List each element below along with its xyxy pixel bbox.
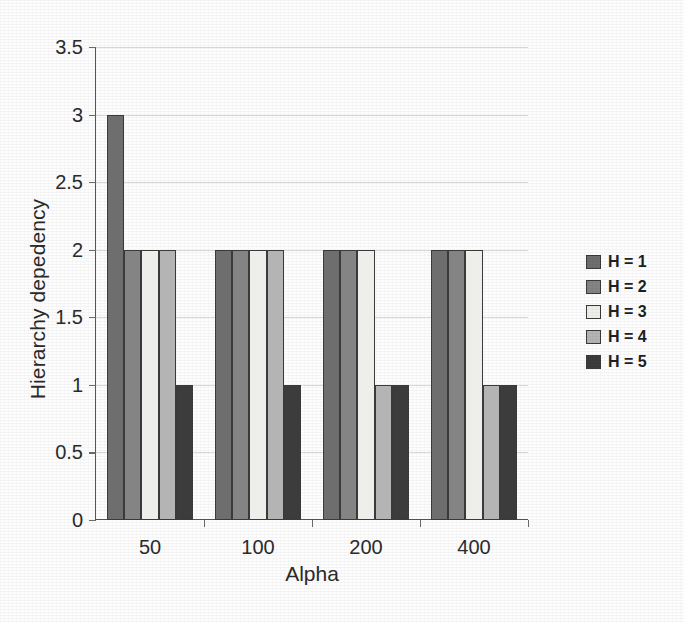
x-axis-title: Alpha	[96, 562, 528, 586]
legend-label: H = 2	[608, 278, 647, 296]
y-axis-line	[95, 47, 96, 520]
x-tick-label: 50	[139, 536, 161, 559]
bar	[159, 250, 176, 520]
legend-item: H = 2	[586, 278, 647, 296]
bar	[500, 385, 517, 520]
bar	[392, 385, 409, 520]
plot-area: 00.511.522.533.5 50100200400	[96, 47, 528, 520]
x-tick-label: 200	[349, 536, 382, 559]
bar	[483, 385, 500, 520]
bar	[323, 250, 340, 520]
y-tick-label: 3	[72, 103, 83, 126]
bar	[375, 385, 392, 520]
y-tick-mark	[89, 520, 96, 521]
y-tick-mark	[89, 317, 96, 318]
bar	[124, 250, 141, 520]
y-tick-mark	[89, 47, 96, 48]
chart-legend: H = 1H = 2H = 3H = 4H = 5	[586, 253, 647, 371]
bar	[465, 250, 482, 520]
legend-swatch-icon	[586, 280, 601, 294]
legend-item: H = 5	[586, 353, 647, 371]
legend-swatch-icon	[586, 255, 601, 269]
legend-swatch-icon	[586, 330, 601, 344]
bar	[176, 385, 193, 520]
y-tick-mark	[89, 452, 96, 453]
bar	[107, 115, 124, 520]
x-tick-mark	[312, 520, 313, 527]
legend-label: H = 3	[608, 303, 647, 321]
gridline	[96, 115, 528, 116]
chart-figure: Hierarchy depedency 00.511.522.533.5 501…	[0, 0, 684, 622]
y-axis-title: Hierarchy depedency	[26, 169, 50, 429]
bar	[340, 250, 357, 520]
y-tick-label: 2.5	[55, 171, 83, 194]
y-tick-mark	[89, 182, 96, 183]
y-tick-label: 1	[72, 373, 83, 396]
bar	[284, 385, 301, 520]
legend-swatch-icon	[586, 355, 601, 369]
bar	[232, 250, 249, 520]
bar	[357, 250, 374, 520]
y-tick-mark	[89, 385, 96, 386]
bar	[249, 250, 266, 520]
bar	[448, 250, 465, 520]
x-tick-label: 400	[457, 536, 490, 559]
bar	[215, 250, 232, 520]
legend-label: H = 4	[608, 328, 647, 346]
y-tick-label: 3.5	[55, 36, 83, 59]
gridline	[96, 47, 528, 48]
legend-item: H = 1	[586, 253, 647, 271]
x-tick-label: 100	[241, 536, 274, 559]
legend-label: H = 5	[608, 353, 647, 371]
y-tick-label: 0	[72, 509, 83, 532]
y-tick-mark	[89, 250, 96, 251]
y-tick-mark	[89, 115, 96, 116]
gridline	[96, 182, 528, 183]
y-tick-label: 2	[72, 238, 83, 261]
legend-label: H = 1	[608, 253, 647, 271]
x-tick-mark	[420, 520, 421, 527]
bar	[267, 250, 284, 520]
legend-item: H = 4	[586, 328, 647, 346]
legend-swatch-icon	[586, 305, 601, 319]
bar	[431, 250, 448, 520]
bar	[141, 250, 158, 520]
y-tick-label: 1.5	[55, 306, 83, 329]
x-tick-mark	[528, 520, 529, 527]
legend-item: H = 3	[586, 303, 647, 321]
x-tick-mark	[204, 520, 205, 527]
y-tick-label: 0.5	[55, 441, 83, 464]
